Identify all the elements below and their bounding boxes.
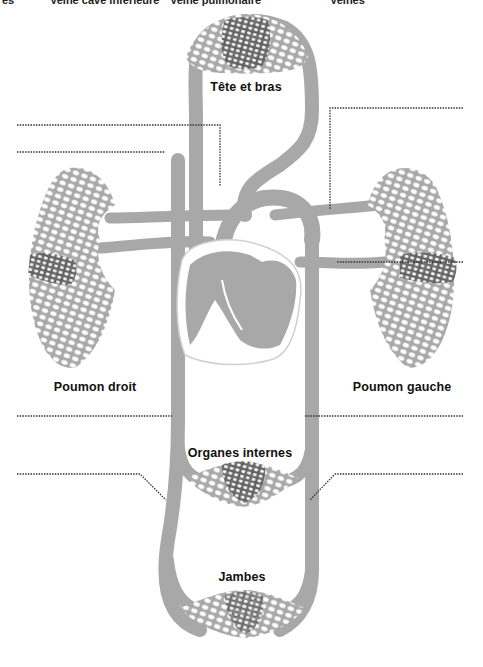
leader-line-right-bottom bbox=[310, 474, 463, 500]
label-internal-organs: Organes internes bbox=[188, 446, 292, 460]
circulatory-system-diagram bbox=[0, 0, 483, 667]
label-left-lung: Poumon gauche bbox=[353, 380, 452, 394]
right-lung bbox=[28, 168, 115, 368]
heart bbox=[177, 240, 301, 365]
left-lung bbox=[368, 168, 456, 368]
label-head-and-arms: Tête et bras bbox=[210, 80, 281, 94]
label-legs: Jambes bbox=[218, 570, 265, 584]
label-right-lung: Poumon droit bbox=[54, 380, 136, 394]
vessels bbox=[100, 160, 385, 630]
organs-capillary-bed bbox=[185, 461, 298, 507]
leader-line-left-bottom bbox=[17, 474, 166, 500]
